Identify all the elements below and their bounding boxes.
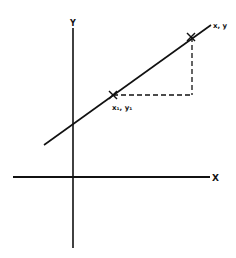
- y-axis-label: Y: [69, 19, 76, 28]
- x-axis-label: X: [212, 173, 219, 183]
- point-label-p1: x₁, y₁: [112, 104, 132, 112]
- trend-line: [44, 25, 211, 145]
- slope-diagram: Y X x, y x₁, y₁: [0, 0, 236, 258]
- point-label-p2: x, y: [213, 22, 228, 30]
